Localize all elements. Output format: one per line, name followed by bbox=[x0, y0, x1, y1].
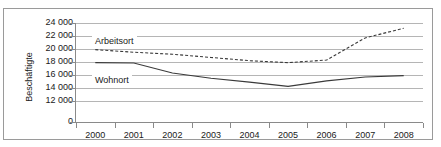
x-axis-tick bbox=[76, 123, 77, 128]
x-axis-tick bbox=[230, 123, 231, 128]
x-axis-tick bbox=[153, 123, 154, 128]
axis-baseline bbox=[76, 122, 423, 123]
y-axis-tick bbox=[70, 122, 75, 123]
x-axis-tick bbox=[307, 123, 308, 128]
y-axis-tick-label: 20 000 bbox=[25, 44, 73, 53]
series-line-wohnort bbox=[95, 63, 403, 87]
x-axis-tick bbox=[423, 123, 424, 128]
x-axis-tick bbox=[192, 123, 193, 128]
y-axis-tick bbox=[70, 75, 75, 76]
y-axis-tick-label: 16 000 bbox=[25, 70, 73, 79]
y-axis-tick bbox=[70, 49, 75, 50]
y-axis-tick-label: 24 000 bbox=[25, 18, 73, 27]
x-axis-tick bbox=[346, 123, 347, 128]
x-axis-tick bbox=[384, 123, 385, 128]
chart-frame: Beschäftigte 24 00022 00020 00018 00016 … bbox=[3, 8, 433, 140]
y-axis-tick-label: 0 bbox=[25, 117, 73, 126]
y-axis-tick bbox=[70, 36, 75, 37]
y-axis-tick-label: 22 000 bbox=[25, 31, 73, 40]
annotation-arbeitsort: Arbeitsort bbox=[92, 36, 137, 46]
x-axis-tick bbox=[115, 123, 116, 128]
y-axis-tick-label: 14 000 bbox=[25, 83, 73, 92]
x-axis-tick-label: 2008 bbox=[381, 130, 427, 140]
y-axis-tick-labels: 24 00022 00020 00018 00016 00014 00012 0… bbox=[25, 9, 73, 147]
series-line-arbeitsort bbox=[95, 28, 403, 62]
annotation-wohnort: Wohnort bbox=[92, 75, 132, 85]
x-axis-tick bbox=[269, 123, 270, 128]
y-axis-tick-label: 12 000 bbox=[25, 96, 73, 105]
y-axis-tick bbox=[70, 62, 75, 63]
y-axis-tick bbox=[70, 23, 75, 24]
y-axis-tick bbox=[70, 88, 75, 89]
y-axis-tick-label: 18 000 bbox=[25, 57, 73, 66]
y-axis-tick bbox=[70, 101, 75, 102]
